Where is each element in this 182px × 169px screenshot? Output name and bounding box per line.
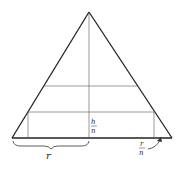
radius-label: r — [46, 150, 52, 161]
radius-step-denominator: n — [139, 149, 144, 157]
slice-height-denominator: n — [91, 127, 96, 135]
radius-brace — [13, 141, 89, 149]
cone-slice-diagram: r h n r n — [0, 0, 182, 169]
slice-height-numerator: h — [91, 118, 96, 126]
radius-step-arrow — [148, 140, 160, 149]
triangle-left-side — [12, 12, 89, 138]
triangle-right-side — [89, 12, 172, 138]
radius-step-numerator: r — [140, 140, 144, 148]
